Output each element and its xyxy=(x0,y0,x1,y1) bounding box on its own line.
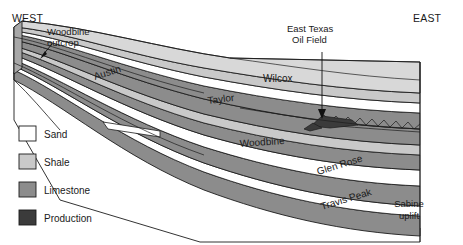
legend-swatch-sand xyxy=(19,126,36,141)
west-label: WEST xyxy=(12,12,44,24)
sabine-uplift-label-line2: uplift xyxy=(399,210,419,221)
legend-swatch-shale xyxy=(19,154,36,169)
legend-label-production: Production xyxy=(44,213,92,224)
sabine-uplift-label-line1: Sabine xyxy=(394,198,424,209)
legend-label-shale: Shale xyxy=(44,157,70,168)
woodbine-outcrop-label-line2: outcrop xyxy=(47,37,79,48)
geologic-block-diagram: WEST EAST Woodbine outcrop East Texas Oi… xyxy=(0,0,463,245)
legend-swatch-limestone xyxy=(19,182,36,197)
oil-field-label-line1: East Texas xyxy=(287,23,334,34)
legend-label-limestone: Limestone xyxy=(44,185,91,196)
east-label: EAST xyxy=(413,12,442,24)
oil-field-label-line2: Oil Field xyxy=(292,34,327,45)
block-body xyxy=(14,21,420,242)
woodbine-outcrop-label-line1: Woodbine xyxy=(47,26,90,37)
cross-section-svg: WEST EAST Woodbine outcrop East Texas Oi… xyxy=(0,0,463,245)
legend-label-sand: Sand xyxy=(44,129,67,140)
legend-swatch-production xyxy=(19,210,36,225)
strata-label-wilcox: Wilcox xyxy=(263,73,292,84)
